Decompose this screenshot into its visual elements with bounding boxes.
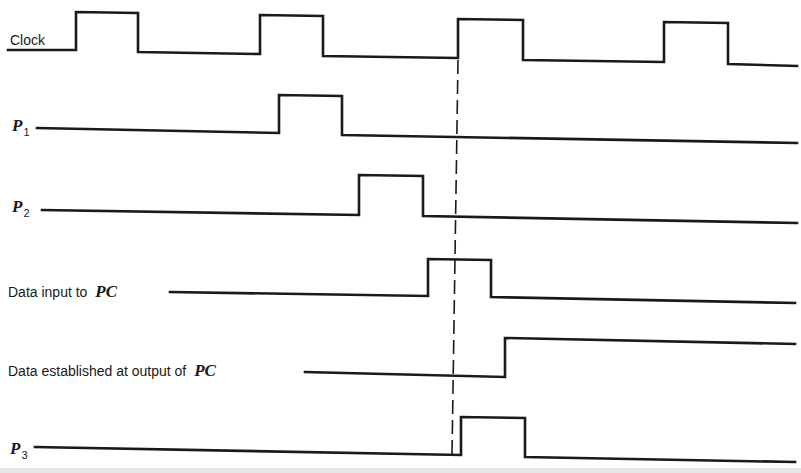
data-established-pc-label: Data established at output of PC bbox=[8, 362, 216, 379]
clock-edge-reference-line bbox=[452, 60, 458, 455]
p2-waveform bbox=[42, 175, 797, 223]
p2-symbol: P2 bbox=[12, 197, 29, 216]
p2-subscript: 2 bbox=[23, 207, 29, 219]
p3-label: P3 bbox=[10, 440, 27, 457]
p3-waveform bbox=[35, 417, 795, 462]
p2-label: P2 bbox=[12, 198, 29, 215]
data-input-pc-label-text: Data input to bbox=[8, 284, 91, 300]
timing-diagram: Clock P1 P2 Data input to PC Data establ… bbox=[0, 0, 801, 473]
page-edge-band bbox=[0, 468, 801, 473]
p1-subscript: 1 bbox=[23, 126, 29, 138]
clock-label: Clock bbox=[10, 33, 45, 47]
p3-symbol: P3 bbox=[10, 439, 27, 458]
data-input-pc-waveform bbox=[170, 259, 795, 303]
pc-symbol: PC bbox=[194, 361, 216, 380]
data-established-pc-label-text: Data established at output of bbox=[8, 363, 190, 379]
p1-symbol: P1 bbox=[12, 116, 29, 135]
pc-symbol: PC bbox=[95, 282, 117, 301]
data-input-pc-label: Data input to PC bbox=[8, 283, 117, 300]
p1-waveform bbox=[37, 95, 797, 143]
clock-waveform bbox=[8, 12, 797, 66]
clock-label-text: Clock bbox=[10, 32, 45, 48]
p1-label: P1 bbox=[12, 117, 29, 134]
timing-waveforms bbox=[0, 0, 801, 473]
p3-subscript: 3 bbox=[21, 449, 27, 461]
data-established-pc-waveform bbox=[305, 338, 795, 377]
